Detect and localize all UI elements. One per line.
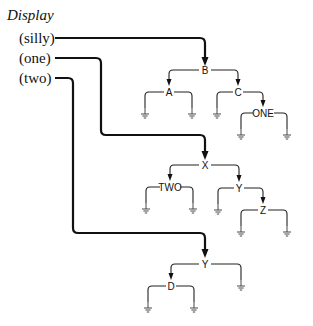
pointer-two (55, 78, 205, 250)
diagram-svg: Display (silly) (one) (two) B A C ONE X (0, 0, 313, 326)
ground-icon (283, 226, 291, 236)
argument-two: (two) (19, 70, 52, 87)
node-one: ONE (252, 108, 274, 119)
display-diagram: Display (silly) (one) (two) B A C ONE X (0, 0, 313, 326)
node-x: X (202, 160, 209, 171)
node-d: D (167, 281, 174, 292)
node-a: A (166, 87, 173, 98)
ground-icon (213, 108, 221, 118)
argument-silly: (silly) (19, 30, 55, 47)
argument-one: (one) (19, 50, 51, 67)
ground-icon (237, 280, 245, 290)
ground-icon (144, 302, 152, 312)
ground-icon (190, 302, 198, 312)
ground-icon (214, 204, 222, 214)
tree-two: Y D (144, 259, 245, 312)
pointer-one (55, 58, 205, 152)
ground-icon (189, 203, 197, 213)
node-z: Z (260, 205, 266, 216)
ground-icon (142, 203, 150, 213)
node-y-1: Y (236, 183, 243, 194)
node-b: B (202, 65, 209, 76)
tree-one: X TWO Y Z (142, 160, 291, 236)
tree-silly: B A C ONE (141, 65, 291, 139)
node-c: C (234, 87, 241, 98)
node-two: TWO (158, 182, 182, 193)
node-y-2: Y (202, 259, 209, 270)
ground-icon (141, 108, 149, 118)
ground-icon (237, 226, 245, 236)
ground-icon (237, 129, 245, 139)
ground-icon (283, 129, 291, 139)
arrow-icon (202, 151, 209, 160)
pointer-silly (55, 38, 205, 58)
ground-icon (188, 108, 196, 118)
display-title: Display (6, 7, 54, 23)
arrow-icon (202, 249, 209, 258)
